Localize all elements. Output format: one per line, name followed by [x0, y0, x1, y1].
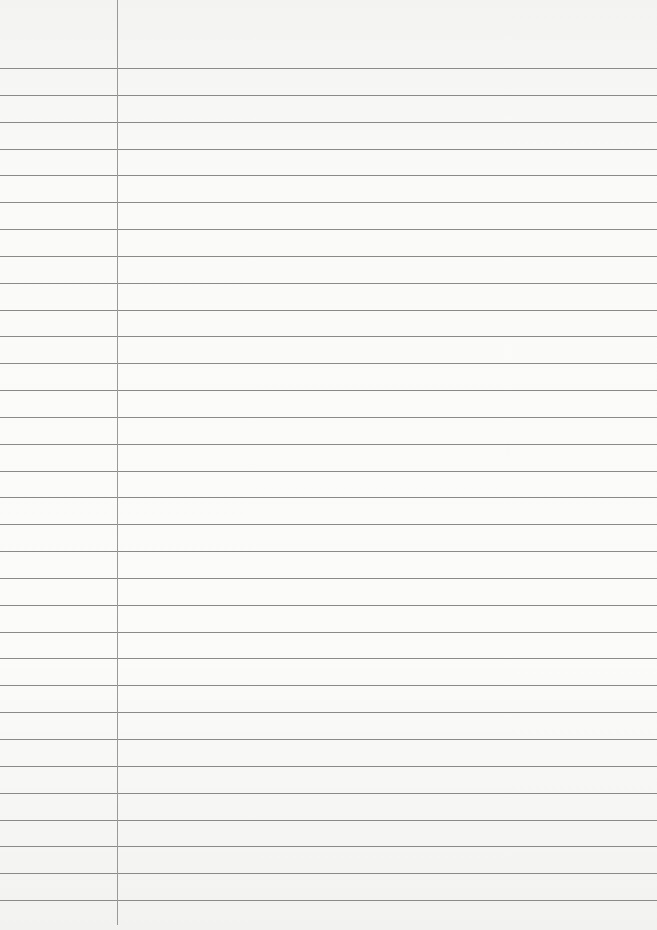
ruled-line — [0, 846, 657, 847]
ruled-line — [0, 497, 657, 498]
ruled-line — [0, 283, 657, 284]
ruled-line — [0, 95, 657, 96]
ruled-line — [0, 739, 657, 740]
ruled-line — [0, 578, 657, 579]
ruled-line — [0, 417, 657, 418]
ruled-line — [0, 229, 657, 230]
margin-line — [117, 0, 118, 925]
ruled-line — [0, 632, 657, 633]
ruled-line — [0, 310, 657, 311]
ruled-line — [0, 793, 657, 794]
ruled-line — [0, 363, 657, 364]
ruled-line — [0, 900, 657, 901]
ruled-line — [0, 471, 657, 472]
ruled-line — [0, 149, 657, 150]
lined-paper — [0, 0, 657, 930]
ruled-line — [0, 122, 657, 123]
ruled-line — [0, 712, 657, 713]
ruled-line — [0, 175, 657, 176]
ruled-line — [0, 873, 657, 874]
ruled-line — [0, 390, 657, 391]
ruled-line — [0, 551, 657, 552]
ruled-line — [0, 820, 657, 821]
ruled-line — [0, 524, 657, 525]
ruled-line — [0, 336, 657, 337]
ruled-line — [0, 658, 657, 659]
ruled-line — [0, 685, 657, 686]
ruled-line — [0, 766, 657, 767]
ruled-line — [0, 202, 657, 203]
ruled-line — [0, 444, 657, 445]
ruled-line — [0, 256, 657, 257]
ruled-line — [0, 605, 657, 606]
ruled-line — [0, 68, 657, 69]
